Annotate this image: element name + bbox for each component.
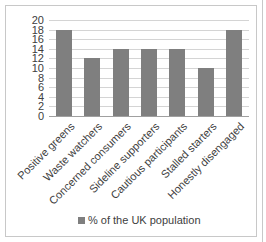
bar <box>226 30 242 116</box>
x-axis-line <box>49 116 249 117</box>
bar <box>141 49 157 116</box>
gridline <box>49 30 249 31</box>
gridline <box>49 39 249 40</box>
panel-divider <box>262 0 263 242</box>
bar <box>198 68 214 116</box>
bar <box>56 30 72 116</box>
plot-area <box>49 20 249 116</box>
bar <box>113 49 129 116</box>
y-tick-label: 0 <box>14 111 44 121</box>
gridline <box>49 20 249 21</box>
legend-label: % of the UK population <box>88 214 201 226</box>
legend: % of the UK population <box>78 214 201 226</box>
bar <box>169 49 185 116</box>
legend-swatch-icon <box>78 217 85 224</box>
bar <box>84 58 100 116</box>
